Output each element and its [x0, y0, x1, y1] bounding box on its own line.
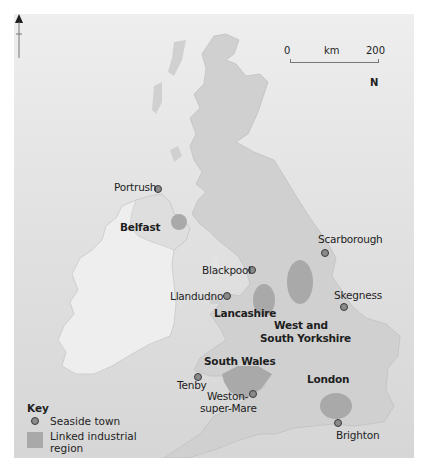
seaside-dot-skegness — [340, 303, 348, 311]
scale-bar — [290, 59, 379, 63]
hebrides-south — [152, 82, 162, 114]
label-west-yorkshire-line2: South Yorkshire — [260, 332, 351, 344]
north-arrow-icon — [14, 14, 24, 58]
key-industrial-swatch — [27, 432, 43, 448]
label-llandudno: Llandudno — [170, 290, 223, 302]
region-belfast — [171, 214, 187, 230]
key-industrial-label: Linked industrial region — [50, 430, 140, 454]
seaside-dot-brighton — [334, 419, 342, 427]
seaside-dot-weston — [249, 390, 257, 398]
label-weston-line2: super-Mare — [200, 402, 257, 414]
islay — [170, 146, 182, 162]
label-west-yorkshire-line1: West and — [274, 319, 328, 331]
label-tenby: Tenby — [177, 379, 207, 391]
label-weston-line1: Weston- — [207, 390, 248, 402]
scale-end: 200 — [366, 45, 385, 56]
key-seaside-label: Seaside town — [50, 415, 120, 427]
label-south-wales: South Wales — [204, 355, 275, 367]
label-brighton: Brighton — [336, 429, 379, 441]
scale-start: 0 — [284, 45, 290, 56]
label-skegness: Skegness — [334, 289, 382, 301]
great-britain-landmass — [164, 34, 400, 458]
region-west-south-yorkshire — [287, 260, 313, 304]
label-scarborough: Scarborough — [318, 233, 383, 245]
label-lancashire: Lancashire — [214, 307, 276, 319]
label-portrush: Portrush — [114, 181, 156, 193]
north-label: N — [370, 77, 378, 88]
label-london: London — [307, 373, 349, 385]
map-frame: Portrush Belfast Blackpool Llandudno Lan… — [14, 14, 414, 458]
scale-unit: km — [324, 45, 340, 56]
label-belfast: Belfast — [120, 221, 160, 233]
key-seaside-dot-icon — [31, 417, 39, 425]
label-blackpool: Blackpool — [202, 264, 251, 276]
outer-hebrides — [168, 40, 186, 76]
region-london — [320, 393, 352, 419]
key-title: Key — [27, 402, 49, 414]
seaside-dot-scarborough — [321, 249, 329, 257]
seaside-dot-llandudno — [223, 292, 231, 300]
